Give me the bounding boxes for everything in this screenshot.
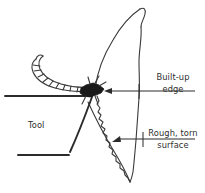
label-tool: Tool (27, 120, 45, 130)
arrow-head-icon (112, 136, 121, 142)
label-built-up-edge-line1: Built-up (156, 72, 189, 82)
label-built-up-edge-line2: edge (162, 84, 183, 94)
diagram-canvas: Tool Built-up edge Rough, torn surface (0, 0, 205, 193)
arrow-head-icon (104, 88, 112, 94)
machining-diagram-svg: Tool Built-up edge Rough, torn surface (0, 0, 205, 193)
workpiece-outline (95, 8, 145, 182)
segmented-chip (32, 55, 90, 92)
label-rough-surface-line1: Rough, torn (148, 128, 197, 138)
cutting-tool (5, 96, 92, 155)
label-rough-surface-line2: surface (157, 140, 188, 150)
built-up-edge-deposit (80, 76, 106, 104)
